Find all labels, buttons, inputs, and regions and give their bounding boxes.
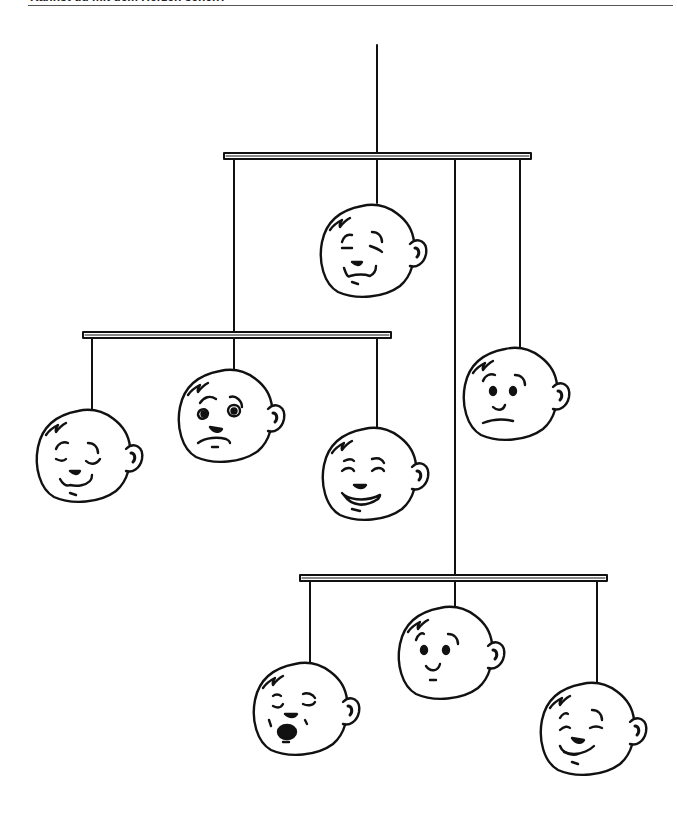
neutral-face bbox=[464, 348, 569, 440]
content-face bbox=[321, 205, 426, 297]
sleepy-smile-face bbox=[37, 410, 142, 502]
curious-face bbox=[399, 607, 504, 699]
smirking-face bbox=[541, 683, 646, 775]
laughing-face bbox=[323, 428, 428, 520]
worried-face bbox=[179, 370, 284, 462]
yawning-face bbox=[254, 663, 359, 755]
mobile-illustration bbox=[0, 0, 677, 825]
